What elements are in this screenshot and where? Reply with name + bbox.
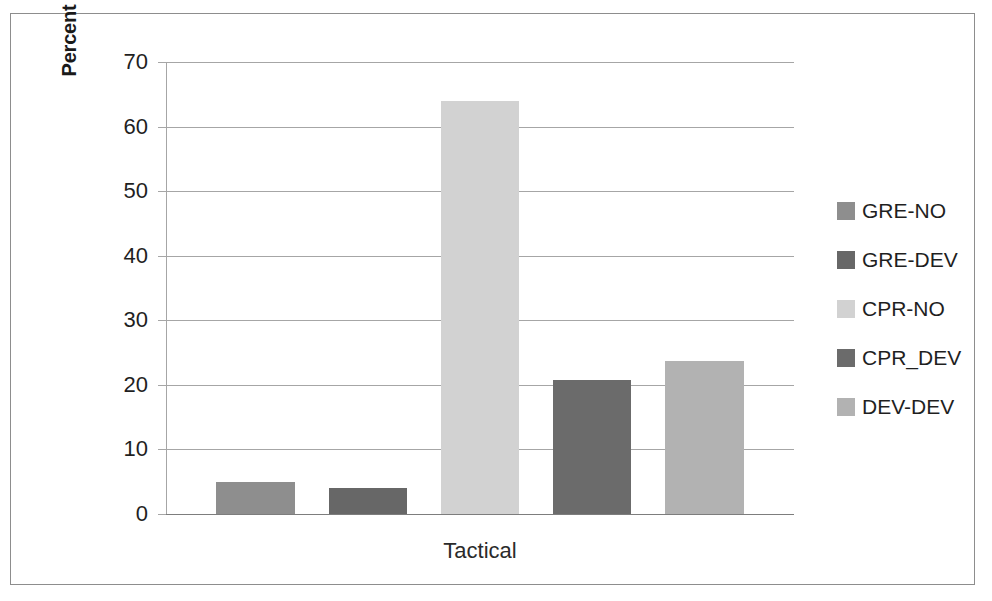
legend-swatch-icon [837,300,855,318]
bar-cpr-no [441,101,520,514]
legend-swatch-icon [837,349,855,367]
bar-gre-no [216,482,295,514]
legend-item-dev-dev[interactable]: DEV-DEV [837,393,977,420]
bar-dev-dev [665,361,744,514]
bar-cpr-dev [553,380,632,514]
y-axis-tick-label: 20 [88,374,148,396]
y-axis-tick-label-wrap: 50 [86,180,148,202]
legend-swatch-icon [837,202,855,220]
legend-label: CPR-NO [862,298,945,319]
y-axis-tick-label-wrap: 70 [86,51,148,73]
y-axis-tick-label: 60 [88,116,148,138]
y-axis-tick-label-wrap: 10 [86,438,148,460]
legend-label: DEV-DEV [862,396,954,417]
y-axis-tick-label-wrap: 40 [86,245,148,267]
y-axis-title: Percent participants in mode [55,0,83,132]
legend-label: GRE-DEV [862,249,958,270]
legend-item-cpr-dev[interactable]: CPR_DEV [837,344,977,371]
y-axis-tick-label: 70 [88,51,148,73]
y-axis-tick-label: 40 [88,245,148,267]
plot-area [166,62,794,514]
legend-swatch-icon [837,398,855,416]
legend-item-gre-dev[interactable]: GRE-DEV [837,246,977,273]
legend-swatch-icon [837,251,855,269]
y-axis-tick-label-wrap: 20 [86,374,148,396]
y-axis-tick-label: 50 [88,180,148,202]
bar-gre-dev [329,488,408,514]
legend-item-cpr-no[interactable]: CPR-NO [837,295,977,322]
chart-figure: Percent participants in mode 70605040302… [10,13,975,585]
y-axis-tick-label: 10 [88,438,148,460]
legend-item-gre-no[interactable]: GRE-NO [837,197,977,224]
y-axis-tick-label-wrap: 0 [86,503,148,525]
y-axis-tick-label-wrap: 60 [86,116,148,138]
legend-label: CPR_DEV [862,347,961,368]
y-axis-tick-label-wrap: 30 [86,309,148,331]
y-axis-tick-label: 30 [88,309,148,331]
gridline [166,62,794,63]
legend-label: GRE-NO [862,200,946,221]
chart-legend: GRE-NOGRE-DEVCPR-NOCPR_DEVDEV-DEV [837,197,977,442]
x-axis-category-label: Tactical [166,538,794,564]
y-axis-tick-label: 0 [88,503,148,525]
gridline [166,514,794,515]
